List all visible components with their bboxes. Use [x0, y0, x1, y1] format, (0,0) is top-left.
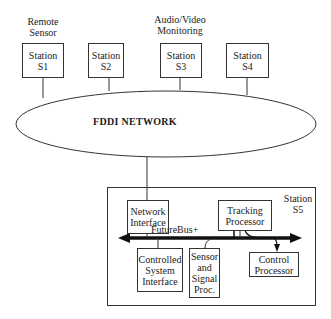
station-s5-title-line1: Station	[282, 193, 314, 204]
ssp-line1: Sensor	[191, 251, 218, 262]
station-s1[interactable]: Station S1	[22, 43, 64, 78]
station-s2-label: Station	[92, 50, 120, 61]
down-arrow-icon	[274, 244, 280, 252]
tracking-processor-line2: Processor	[226, 216, 265, 227]
s3-caption-line1: Audio/Video	[148, 14, 212, 25]
futurebus-label: FutureBus+	[151, 224, 198, 235]
bus-left-arrow-icon	[118, 233, 130, 243]
tracking-processor-line1: Tracking	[226, 205, 265, 216]
control-processor-line1: Control	[255, 254, 294, 265]
tracking-processor-box[interactable]: Tracking Processor	[218, 200, 272, 231]
controlled-system-interface-box[interactable]: Controlled System Interface	[137, 248, 183, 292]
station-s1-label: Station	[29, 50, 57, 61]
csi-line2: System	[139, 265, 182, 276]
csi-line3: Interface	[139, 276, 182, 287]
station-s3[interactable]: Station S3	[160, 43, 202, 78]
station-s1-id: S1	[29, 61, 57, 72]
s1-caption: Remote Sensor	[22, 16, 64, 38]
s1-caption-line1: Remote	[22, 16, 64, 27]
station-s2-id: S2	[92, 61, 120, 72]
station-s5-title: Station S5	[282, 193, 314, 215]
station-s3-id: S3	[167, 61, 195, 72]
s1-caption-line2: Sensor	[22, 27, 64, 38]
bus-right-arrow-icon	[290, 233, 302, 243]
station-s4[interactable]: Station S4	[226, 43, 269, 78]
network-interface-line1: Network	[130, 206, 166, 217]
station-s4-id: S4	[233, 61, 261, 72]
fddi-network-label: FDDI NETWORK	[93, 116, 177, 127]
s3-caption-line2: Monitoring	[148, 25, 212, 36]
station-s2[interactable]: Station S2	[88, 43, 124, 78]
control-processor-line2: Processor	[255, 265, 294, 276]
ssp-line2: and	[191, 262, 218, 273]
control-processor-box[interactable]: Control Processor	[249, 252, 299, 277]
ssp-line3: Signal	[191, 273, 218, 284]
station-s4-label: Station	[233, 50, 261, 61]
ssp-line4: Proc.	[191, 284, 218, 295]
sensor-signal-proc-box[interactable]: Sensor and Signal Proc.	[189, 248, 220, 298]
csi-line1: Controlled	[139, 254, 182, 265]
s3-caption: Audio/Video Monitoring	[148, 14, 212, 36]
station-s5-title-line2: S5	[282, 204, 314, 215]
station-s3-label: Station	[167, 50, 195, 61]
